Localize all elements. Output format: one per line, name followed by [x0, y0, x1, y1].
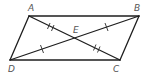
diagonal-bd — [10, 16, 139, 60]
label-c: C — [113, 64, 120, 74]
label-b: B — [134, 3, 140, 13]
label-e: E — [73, 25, 79, 35]
parallelogram-diagram: A B C D E — [0, 0, 149, 76]
side-da — [10, 16, 29, 60]
side-bc — [120, 16, 139, 60]
label-d: D — [8, 64, 15, 74]
label-a: A — [27, 3, 34, 13]
